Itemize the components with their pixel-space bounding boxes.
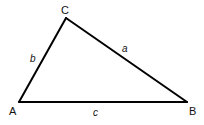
side-label-a: a <box>122 43 128 54</box>
triangle-diagram: C A B b a c <box>0 0 204 125</box>
triangle-svg: C A B b a c <box>0 0 204 125</box>
vertex-label-a: A <box>9 105 17 117</box>
side-label-c: c <box>93 107 98 118</box>
side-b-line <box>19 18 66 102</box>
vertex-label-b: B <box>189 105 196 117</box>
side-label-b: b <box>30 53 36 64</box>
side-a-line <box>66 18 187 102</box>
vertex-label-c: C <box>61 4 69 16</box>
